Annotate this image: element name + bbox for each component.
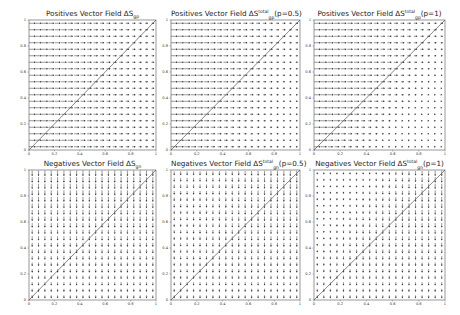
svg-text:0.4: 0.4 [364, 302, 370, 306]
svg-text:0: 0 [309, 148, 312, 152]
svg-text:0.6: 0.6 [246, 302, 252, 306]
svg-text:0.6: 0.6 [305, 220, 311, 224]
svg-text:0.4: 0.4 [77, 152, 83, 156]
svg-text:0.8: 0.8 [416, 152, 422, 156]
svg-text:0.8: 0.8 [271, 302, 277, 306]
svg-text:0.8: 0.8 [128, 152, 134, 156]
svg-text:1: 1 [155, 152, 157, 156]
panel-title: Positives Vector Field ΔSgp [29, 9, 156, 19]
svg-text:0: 0 [24, 148, 27, 152]
svg-text:0.6: 0.6 [390, 302, 396, 306]
panel-title: Negatives Vector Field ΔStotalgn(p=0.5) [171, 159, 300, 170]
svg-text:0.2: 0.2 [305, 122, 311, 126]
svg-text:0: 0 [28, 302, 31, 306]
svg-text:1: 1 [299, 152, 301, 156]
svg-text:0.2: 0.2 [52, 302, 58, 306]
svg-text:0.4: 0.4 [77, 302, 83, 306]
svg-text:0: 0 [28, 152, 31, 156]
svg-text:0.2: 0.2 [337, 152, 343, 156]
panel-title: Negatives Vector Field ΔStotalgn(p=1) [314, 159, 445, 170]
svg-text:0.2: 0.2 [52, 152, 58, 156]
svg-text:0.8: 0.8 [20, 194, 26, 198]
svg-text:0: 0 [309, 298, 312, 302]
svg-text:0: 0 [170, 152, 173, 156]
svg-text:1: 1 [24, 168, 26, 172]
svg-text:0.6: 0.6 [246, 152, 252, 156]
svg-text:0.4: 0.4 [364, 152, 370, 156]
svg-text:0.8: 0.8 [162, 44, 168, 48]
svg-text:0.8: 0.8 [162, 194, 168, 198]
svg-text:0.2: 0.2 [194, 152, 200, 156]
svg-text:0.4: 0.4 [20, 96, 26, 100]
svg-text:1: 1 [444, 302, 446, 306]
svg-text:0.8: 0.8 [305, 194, 311, 198]
quiver-plot: 00.20.40.60.8100.20.40.60.81 [171, 170, 300, 300]
quiver-plot: 00.20.40.60.8100.20.40.60.81 [314, 170, 445, 300]
svg-text:0: 0 [313, 152, 316, 156]
svg-text:1: 1 [444, 152, 446, 156]
svg-text:0.8: 0.8 [128, 302, 134, 306]
svg-text:1: 1 [166, 18, 168, 22]
svg-text:0.2: 0.2 [162, 272, 168, 276]
svg-text:0.6: 0.6 [20, 220, 26, 224]
svg-text:0.8: 0.8 [271, 152, 277, 156]
svg-text:1: 1 [299, 302, 301, 306]
panel-title: Positives Vector Field ΔStotalgp(p=0.5) [171, 9, 300, 20]
quiver-plot: 00.20.40.60.8100.20.40.60.81 [29, 20, 156, 150]
svg-text:1: 1 [155, 302, 157, 306]
svg-text:0.8: 0.8 [305, 44, 311, 48]
svg-text:0.6: 0.6 [102, 302, 108, 306]
svg-text:0.6: 0.6 [390, 152, 396, 156]
svg-text:0.8: 0.8 [416, 302, 422, 306]
svg-text:1: 1 [309, 18, 311, 22]
svg-text:0.6: 0.6 [162, 220, 168, 224]
svg-text:0: 0 [313, 302, 316, 306]
svg-text:0.2: 0.2 [305, 272, 311, 276]
svg-text:0.4: 0.4 [220, 152, 226, 156]
svg-text:0.2: 0.2 [20, 272, 26, 276]
svg-text:0.2: 0.2 [337, 302, 343, 306]
svg-text:1: 1 [309, 168, 311, 172]
quiver-plot: 00.20.40.60.8100.20.40.60.81 [29, 170, 156, 300]
svg-text:0: 0 [170, 302, 173, 306]
svg-text:0: 0 [166, 298, 169, 302]
svg-text:0.6: 0.6 [20, 70, 26, 74]
panel-title: Positives Vector Field ΔStotalgp(p=1) [314, 9, 445, 20]
quiver-plot: 00.20.40.60.8100.20.40.60.81 [314, 20, 445, 150]
svg-text:0.6: 0.6 [162, 70, 168, 74]
quiver-plot: 00.20.40.60.8100.20.40.60.81 [171, 20, 300, 150]
svg-text:1: 1 [166, 168, 168, 172]
svg-text:0.2: 0.2 [162, 122, 168, 126]
svg-text:1: 1 [24, 18, 26, 22]
svg-text:0.4: 0.4 [305, 96, 311, 100]
svg-text:0.6: 0.6 [102, 152, 108, 156]
svg-text:0.2: 0.2 [20, 122, 26, 126]
svg-text:0.6: 0.6 [305, 70, 311, 74]
svg-text:0.4: 0.4 [220, 302, 226, 306]
svg-text:0.4: 0.4 [20, 246, 26, 250]
svg-text:0: 0 [166, 148, 169, 152]
panel-title: Negatives Vector Field ΔSgn [29, 159, 156, 169]
svg-text:0.4: 0.4 [305, 246, 311, 250]
svg-text:0.4: 0.4 [162, 246, 168, 250]
svg-text:0.8: 0.8 [20, 44, 26, 48]
svg-text:0: 0 [24, 298, 27, 302]
svg-text:0.4: 0.4 [162, 96, 168, 100]
svg-text:0.2: 0.2 [194, 302, 200, 306]
